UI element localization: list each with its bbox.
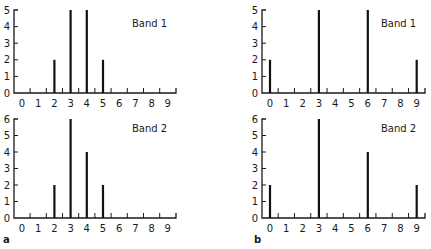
y-tick-label: 2 [252,54,258,65]
x-tick-label: 7 [132,98,138,109]
band-title: Band 1 [132,18,167,29]
x-tick-label: 2 [299,223,305,234]
y-tick-label: 0 [252,213,258,224]
x-tick-label: 2 [51,223,57,234]
y-tick-label: 3 [252,163,258,174]
x-tick-label: 0 [267,98,273,109]
x-tick-label: 5 [100,98,106,109]
x-tick-label: 7 [381,98,387,109]
y-tick-label: 2 [252,180,258,191]
y-tick-label: 4 [252,21,258,32]
y-tick-label: 3 [4,38,10,49]
x-tick-label: 4 [332,223,338,234]
x-tick-label: 1 [283,98,289,109]
x-tick-label: 6 [116,98,122,109]
x-tick-label: 6 [365,223,371,234]
x-tick-label: 5 [100,223,106,234]
x-tick-label: 9 [165,223,171,234]
band-title: Band 1 [381,18,416,29]
x-tick-label: 1 [35,223,41,234]
y-tick-label: 0 [4,213,10,224]
x-tick-label: 8 [148,98,154,109]
y-tick-label: 2 [4,180,10,191]
x-tick-label: 6 [365,98,371,109]
y-tick-label: 4 [252,147,258,158]
y-tick-label: 5 [252,130,258,141]
figure-band-histograms: 0123450123456789Band 101234560123456789B… [0,0,431,249]
x-tick-label: 0 [19,223,25,234]
x-tick-label: 7 [381,223,387,234]
y-tick-label: 5 [4,5,10,16]
x-tick-label: 7 [132,223,138,234]
y-tick-label: 0 [4,88,10,99]
x-tick-label: 4 [332,98,338,109]
x-tick-label: 8 [148,223,154,234]
y-tick-label: 4 [4,147,10,158]
x-tick-label: 5 [348,98,354,109]
y-tick-label: 2 [4,54,10,65]
x-tick-label: 2 [51,98,57,109]
x-tick-label: 0 [19,98,25,109]
panel-label-a: a [3,234,10,245]
y-tick-label: 4 [4,21,10,32]
y-tick-label: 0 [252,88,258,99]
chart-panel-b-band-1: 0123450123456789Band 1 [252,5,425,110]
y-tick-label: 5 [252,5,258,16]
x-tick-label: 5 [348,223,354,234]
x-tick-label: 3 [316,223,322,234]
x-tick-label: 6 [116,223,122,234]
chart-panel-a-band-2: 01234560123456789Band 2 [4,114,176,235]
x-tick-label: 4 [84,98,90,109]
x-tick-label: 3 [67,98,73,109]
y-tick-label: 1 [252,71,258,82]
x-tick-label: 0 [267,223,273,234]
x-tick-label: 1 [283,223,289,234]
x-tick-label: 8 [397,223,403,234]
x-tick-label: 2 [299,98,305,109]
x-tick-label: 4 [84,223,90,234]
y-tick-label: 6 [252,114,258,125]
x-tick-label: 9 [414,223,420,234]
y-tick-label: 1 [4,71,10,82]
y-tick-label: 6 [4,114,10,125]
x-tick-label: 8 [397,98,403,109]
x-tick-label: 3 [67,223,73,234]
y-tick-label: 3 [4,163,10,174]
panel-label-b: b [254,234,261,245]
x-tick-label: 3 [316,98,322,109]
band-title: Band 2 [381,123,416,134]
y-tick-label: 5 [4,130,10,141]
x-tick-label: 9 [165,98,171,109]
y-tick-label: 3 [252,38,258,49]
chart-panel-a-band-1: 0123450123456789Band 1 [4,5,176,110]
x-tick-label: 1 [35,98,41,109]
chart-panel-b-band-2: 01234560123456789Band 2 [252,114,425,235]
y-tick-label: 1 [4,196,10,207]
x-tick-label: 9 [414,98,420,109]
band-title: Band 2 [132,123,167,134]
y-tick-label: 1 [252,196,258,207]
